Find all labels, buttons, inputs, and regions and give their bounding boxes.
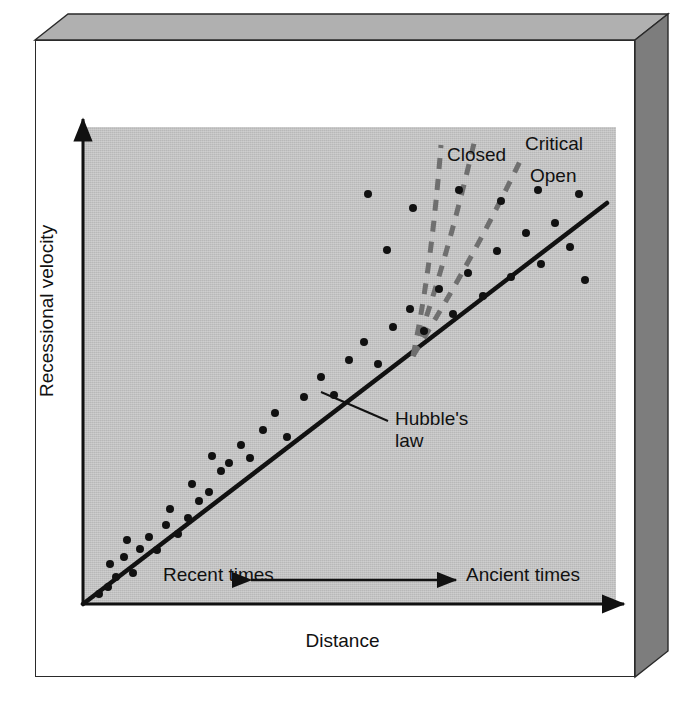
ancient-times-label: Ancient times: [466, 564, 580, 586]
hubbles-law-annotation: Hubble's law: [395, 408, 468, 452]
cosmology-curves: [413, 139, 523, 356]
closed-curve-label: Closed: [447, 144, 506, 166]
hubbles-law-line: [83, 203, 607, 604]
closed-curve: [413, 145, 441, 356]
critical-curve-label: Critical: [525, 133, 583, 155]
y-axis-label: Recessional velocity: [36, 201, 58, 421]
open-curve: [413, 155, 523, 356]
open-curve-label: Open: [530, 165, 576, 187]
plot-area: [83, 127, 616, 604]
hubbles-law-line1: Hubble's: [395, 408, 468, 430]
figure-root: Recessional velocity Distance Closed Cri…: [0, 0, 685, 702]
critical-curve: [413, 139, 475, 356]
plot-svg: [83, 127, 616, 604]
frame-right-bevel: [635, 14, 668, 677]
x-axis-label: Distance: [0, 630, 685, 652]
hubbles-law-line2: law: [395, 430, 468, 452]
frame-top-bevel: [35, 14, 668, 40]
recent-times-label: Recent times: [163, 564, 274, 586]
